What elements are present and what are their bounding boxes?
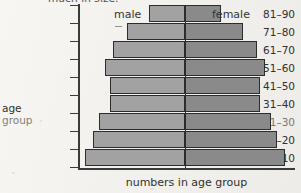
y-axis-tick — [70, 95, 78, 96]
bar-female-51-60 — [185, 59, 265, 76]
bar-male-31-40 — [110, 95, 185, 112]
bar-row-51-60 — [105, 59, 265, 76]
y-axis-tick — [70, 149, 78, 150]
bar-row-31-40 — [110, 95, 260, 112]
bar-row-41-50 — [110, 77, 260, 94]
population-pyramid-figure: much in size. 81–90 71–80 61–70 51–60 41… — [0, 0, 301, 193]
y-axis-tick — [70, 5, 78, 6]
bar-male-51-60 — [105, 59, 185, 76]
bar-male-41-50 — [110, 77, 185, 94]
bar-male-21-30 — [99, 113, 185, 130]
bar-male-11-20 — [93, 131, 185, 148]
y-axis-tick — [70, 131, 78, 132]
bar-male-71-80 — [127, 23, 185, 40]
y-axis-tick — [70, 113, 78, 114]
legend-male-artifact-dash — [115, 26, 122, 27]
clipped-caption: much in size. — [48, 0, 119, 4]
bar-female-41-50 — [185, 77, 260, 94]
x-axis-title: numbers in age group — [78, 176, 295, 189]
bar-male-61-70 — [113, 41, 185, 58]
bar-female-61-70 — [185, 41, 257, 58]
x-axis-line — [78, 168, 295, 170]
y-axis-tick — [70, 59, 78, 60]
bar-female-11-20 — [185, 131, 277, 148]
y-axis-title-line1: age — [2, 103, 22, 114]
bar-female-0-10 — [185, 149, 285, 166]
bar-row-21-30 — [99, 113, 271, 130]
scan-speck — [40, 120, 42, 122]
y-axis-tick — [70, 41, 78, 42]
bar-female-21-30 — [185, 113, 271, 130]
bar-female-31-40 — [185, 95, 260, 112]
bar-row-81-90 — [149, 5, 221, 22]
y-axis-title-line2: group — [2, 115, 33, 126]
y-axis-tick — [70, 23, 78, 24]
bar-row-71-80 — [127, 23, 243, 40]
legend-label-male: male — [114, 8, 141, 21]
bar-row-0-10 — [85, 149, 285, 166]
legend-label-female: female — [212, 8, 250, 21]
bar-male-0-10 — [85, 149, 185, 166]
scan-speck — [12, 172, 15, 174]
bar-row-11-20 — [93, 131, 277, 148]
y-axis-tick — [70, 167, 78, 168]
bar-row-61-70 — [113, 41, 257, 58]
bar-female-71-80 — [185, 23, 243, 40]
bar-male-81-90 — [149, 5, 185, 22]
y-axis-tick — [70, 77, 78, 78]
y-axis-line — [78, 4, 80, 169]
